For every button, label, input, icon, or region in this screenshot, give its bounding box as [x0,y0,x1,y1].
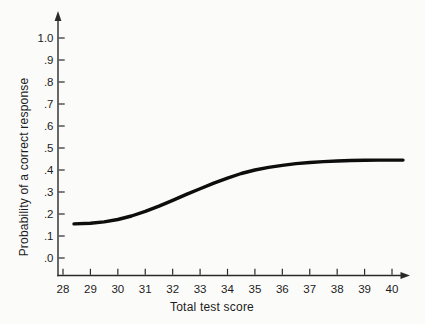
x-tick-label: 36 [276,283,289,295]
x-tick-label: 37 [303,283,316,295]
x-tick-label: 40 [386,283,399,295]
y-axis-title: Probability of a correct response [17,78,31,257]
x-tick-label: 35 [249,283,262,295]
x-tick-label: 31 [139,283,152,295]
x-axis-arrow-icon [401,272,411,279]
x-tick-label: 28 [57,283,70,295]
y-tick-label: .8 [44,76,54,88]
y-tick-label: .4 [44,164,54,176]
y-tick-label: .6 [44,120,54,132]
y-tick-label: 1.0 [38,32,54,44]
y-axis-arrow-icon [55,11,62,21]
x-tick-label: 39 [358,283,371,295]
x-tick-label: 29 [84,283,97,295]
y-tick-label: .2 [44,208,54,220]
x-tick-label: 38 [331,283,344,295]
chart-canvas: .0.1.2.3.4.5.6.7.8.91.028293031323334353… [0,0,425,324]
y-tick-label: .3 [44,186,54,198]
y-tick-label: .7 [44,98,54,110]
y-tick-label: .5 [44,142,54,154]
x-tick-label: 33 [194,283,207,295]
y-tick-label: .9 [44,54,54,66]
curve-path [74,160,403,224]
x-tick-label: 30 [111,283,124,295]
x-axis-title: Total test score [170,300,254,314]
x-tick-label: 32 [166,283,179,295]
x-tick-label: 34 [221,283,234,295]
y-tick-label: .0 [44,252,54,264]
y-tick-label: .1 [44,230,54,242]
item-characteristic-curve-figure: .0.1.2.3.4.5.6.7.8.91.028293031323334353… [0,0,425,324]
